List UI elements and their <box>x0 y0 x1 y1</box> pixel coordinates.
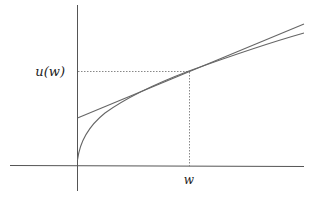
utility-curve <box>78 33 305 160</box>
w-label: w <box>184 173 195 187</box>
x-axis <box>10 166 304 167</box>
u-of-w-label: u(w) <box>35 64 65 79</box>
utility-diagram: u(w) w <box>0 0 312 198</box>
